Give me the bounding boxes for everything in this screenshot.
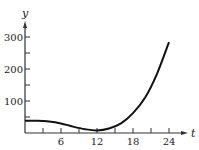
x-tick-label: 24 [163,136,176,147]
y-tick-label: 200 [4,64,23,75]
y-tick-label: 300 [4,32,23,43]
x-tick-label: 12 [91,136,104,147]
x-axis-arrow-icon [181,131,188,135]
y-axis-label: y [21,7,29,20]
x-axis: t 6121824 [25,127,196,147]
data-line [25,42,169,130]
y-axis: y 100200300 [4,7,30,133]
x-tick-label: 18 [127,136,140,147]
y-tick-label: 100 [4,96,23,107]
x-axis-label: t [191,127,196,140]
y-axis-arrow-icon [23,21,27,28]
x-tick-label: 6 [58,136,64,147]
chart: y 100200300 t 6121824 [0,0,199,150]
